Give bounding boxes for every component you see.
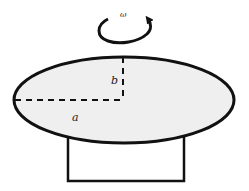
label-a: a xyxy=(72,111,79,124)
diagram-canvas: b a ω xyxy=(0,0,249,191)
rotation-arrow-icon xyxy=(99,19,151,43)
label-b: b xyxy=(111,74,118,87)
label-omega: ω xyxy=(120,10,127,19)
